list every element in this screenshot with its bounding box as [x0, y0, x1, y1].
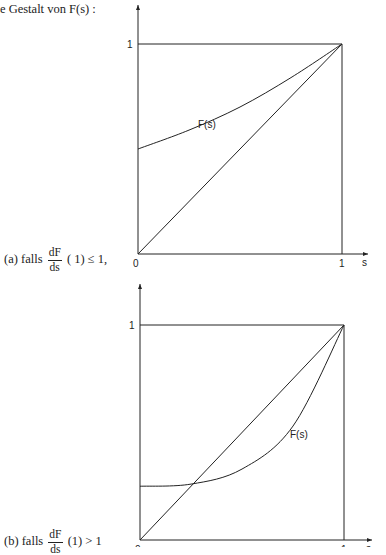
chart-a-x-tick-0: 0	[133, 258, 139, 269]
chart-b-y-tick-1: 1	[129, 320, 135, 331]
chart-b-y-arrow-icon	[138, 284, 142, 289]
chart-a-series-label: F(s)	[198, 119, 216, 130]
chart-b-series-diagonal	[140, 325, 344, 540]
chart-b-series-F	[140, 325, 344, 486]
chart-a-series-diagonal	[138, 44, 342, 254]
chart-b-x-tick-0: 0	[135, 544, 141, 547]
chart-b-series-label: F(s)	[290, 429, 308, 440]
chart-a-x-arrow-icon	[363, 252, 368, 256]
chart-a-y-arrow-icon	[136, 5, 140, 10]
chart-b-x-tick-1: 1	[341, 544, 347, 547]
chart-a-series-F	[138, 44, 342, 149]
chart-a-y-tick-1: 1	[127, 39, 133, 50]
chart-b-x-arrow-icon	[367, 538, 372, 542]
chart-b-x-label: s	[366, 543, 371, 547]
chart-a-x-label: s	[362, 257, 367, 268]
chart-a-x-tick-1: 1	[339, 258, 345, 269]
